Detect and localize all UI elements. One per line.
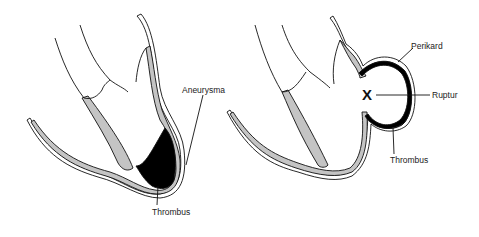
- diagram-svg: Aneurysma Thrombus X Perikard Ruptur Thr…: [0, 0, 479, 237]
- label-thrombus-left: Thrombus: [152, 207, 190, 217]
- heart-aneurysm-diagram: Aneurysma Thrombus X Perikard Ruptur Thr…: [0, 0, 479, 237]
- label-perikard: Perikard: [411, 41, 443, 51]
- label-thrombus-right: Thrombus: [390, 155, 428, 165]
- left-heart-aneurysm: [27, 14, 203, 205]
- label-ruptur: Ruptur: [432, 90, 458, 100]
- label-aneurysma: Aneurysma: [182, 85, 225, 95]
- rupture-mark: X: [362, 86, 372, 103]
